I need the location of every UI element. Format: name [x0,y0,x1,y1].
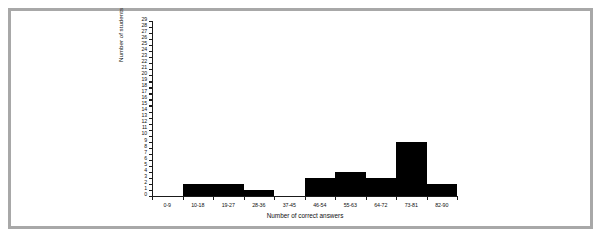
x-axis-tick-mark [213,196,214,200]
y-axis-tick-label: 26 [142,35,147,40]
x-axis-tick-label: 0-9 [152,202,183,208]
x-axis-tick-mark [396,196,397,200]
y-axis-tick-label: 22 [142,59,147,64]
x-axis-tick-mark [457,196,458,200]
x-axis-tick-mark [427,196,428,200]
histogram-bar [366,178,397,196]
x-axis-tick-mark [274,196,275,200]
x-axis-tick-label: 82-90 [427,202,458,208]
y-axis-tick-label: 23 [142,53,147,58]
y-axis-tick-label: 3 [144,174,147,179]
histogram-bar [335,172,366,196]
x-axis-tick-mark [183,196,184,200]
histogram-bar [183,184,214,196]
x-axis-tick-mark [244,196,245,200]
y-axis-tick-label: 5 [144,162,147,167]
y-axis-tick-label: 14 [142,107,147,112]
x-axis-tick-label: 46-54 [305,202,336,208]
y-axis-tick-label: 12 [142,119,147,124]
histogram-bar [305,178,336,196]
histogram-bar [427,184,458,196]
y-axis-tick-label: 24 [142,47,147,52]
y-axis-title: Number of students [117,0,124,62]
histogram-bar [244,190,275,196]
x-axis-tick-label: 37-45 [274,202,305,208]
y-axis-tick-label: 1 [144,186,147,191]
x-axis-tick-mark [152,196,153,200]
y-axis-tick-label: 2 [144,180,147,185]
y-axis-tick-label: 16 [142,95,147,100]
x-axis-tick-label: 19-27 [213,202,244,208]
y-axis-tick-label: 18 [142,83,147,88]
y-axis-tick-label: 4 [144,168,147,173]
y-axis-tick-label: 11 [142,125,147,130]
histogram-chart: 0123456789101112131415161718192021222324… [0,0,604,241]
x-axis-tick-label: 73-81 [396,202,427,208]
y-axis-tick-label: 25 [142,41,147,46]
x-axis-tick-label: 55-63 [335,202,366,208]
y-axis-tick-label: 20 [142,71,147,76]
y-axis-tick-label: 6 [144,156,147,161]
x-axis-tick-mark [335,196,336,200]
y-axis-tick-label: 17 [142,89,147,94]
y-axis-tick-label: 19 [142,77,147,82]
y-axis-tick-label: 10 [142,131,147,136]
y-axis-tick-label: 8 [144,144,147,149]
x-axis-tick-label: 64-72 [366,202,397,208]
histogram-bar [396,142,427,196]
y-axis-tick-label: 29 [142,17,147,22]
y-axis-tick-label: 21 [142,65,147,70]
x-axis-tick-mark [305,196,306,200]
histogram-bar [213,184,244,196]
y-axis-tick-label: 13 [142,113,147,118]
plot-area [152,21,457,196]
x-axis-tick-mark [366,196,367,200]
y-axis-tick-label: 15 [142,101,147,106]
y-axis-tick-label: 0 [144,192,147,197]
y-axis-tick-label: 7 [144,150,147,155]
y-axis-tick-label: 27 [142,29,147,34]
x-axis-tick-label: 10-18 [183,202,214,208]
y-axis-tick-label: 28 [142,23,147,28]
x-axis-tick-label: 28-36 [244,202,275,208]
x-axis-title: Number of correct answers [152,212,458,219]
y-axis-tick-label: 9 [144,138,147,143]
